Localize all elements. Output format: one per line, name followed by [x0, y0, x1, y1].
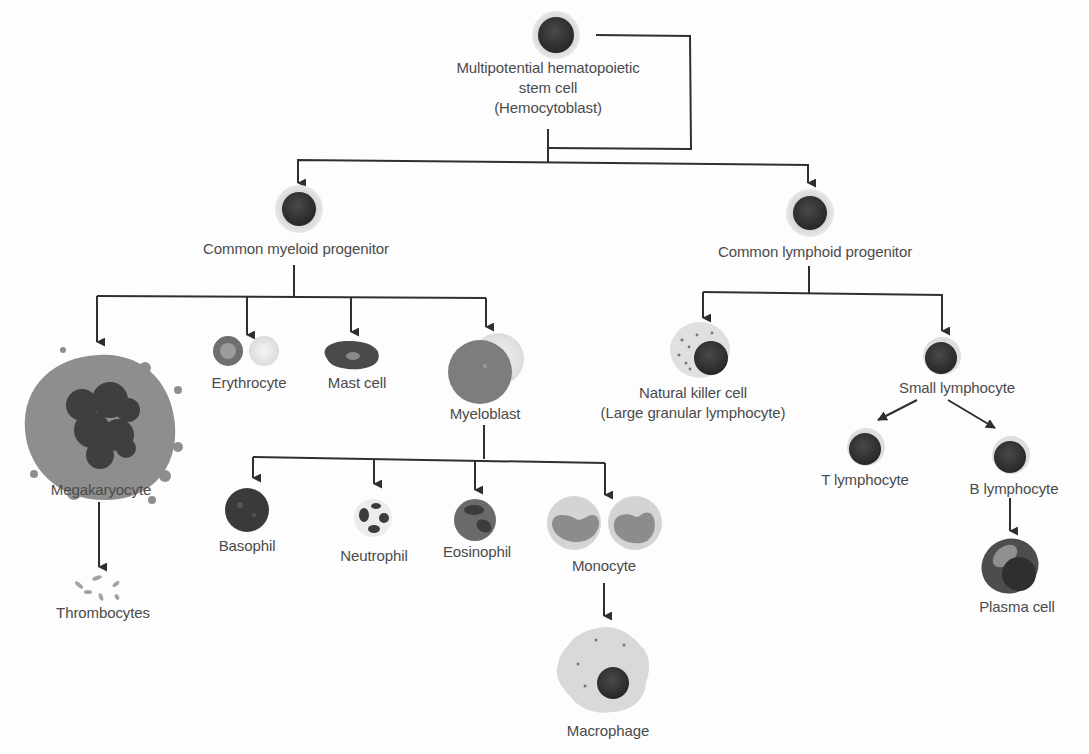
nk-cell-icon [670, 322, 730, 378]
megakaryocyte-label: Megakaryocyte [51, 480, 151, 500]
monocyte-label: Monocyte [572, 556, 636, 576]
small-lymphocyte-icon [923, 337, 961, 375]
small-lymphocyte-label: Small lymphocyte [899, 378, 1015, 398]
eosinophil-label: Eosinophil [443, 542, 511, 562]
t-lymphocyte-icon [847, 428, 885, 466]
platelets-icon [74, 574, 120, 601]
mast-cell-icon [325, 341, 379, 369]
basophil-label: Basophil [219, 536, 276, 556]
stem-cell-label: Multipotential hematopoietic stem cell (… [456, 58, 639, 118]
neutrophil-icon [354, 499, 392, 537]
hematopoiesis-diagram: Multipotential hematopoietic stem cell (… [0, 0, 1089, 754]
lymphoid-progenitor-label: Common lymphoid progenitor [718, 242, 912, 262]
red-blood-cell-icon [213, 336, 279, 366]
myeloblast-icon [448, 333, 524, 404]
thrombocytes-label: Thrombocytes [56, 603, 150, 623]
plasma-cell-label: Plasma cell [979, 597, 1055, 617]
t-lymphocyte-label: T lymphocyte [821, 470, 909, 490]
basophil-icon [225, 488, 269, 532]
myeloblast-label: Myeloblast [450, 404, 521, 424]
erythrocyte-label: Erythrocyte [212, 373, 287, 393]
stem-cell-icon [532, 11, 580, 59]
mast-cell-label: Mast cell [328, 373, 386, 393]
myeloid-progenitor-label: Common myeloid progenitor [203, 239, 389, 259]
myeloid-progenitor-icon [275, 185, 323, 233]
eosinophil-icon [454, 499, 496, 541]
macrophage-icon [557, 627, 649, 713]
nk-cell-label: Natural killer cell (Large granular lymp… [601, 383, 786, 423]
b-lymphocyte-icon [992, 436, 1030, 474]
plasma-cell-icon [971, 528, 1048, 604]
macrophage-label: Macrophage [567, 721, 649, 741]
lymphoid-progenitor-icon [786, 189, 834, 237]
b-lymphocyte-label: B lymphocyte [970, 479, 1059, 499]
neutrophil-label: Neutrophil [340, 546, 407, 566]
monocyte-icon [547, 496, 662, 550]
